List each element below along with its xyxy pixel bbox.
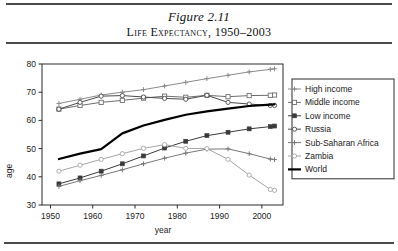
- chart-legend: High incomeMiddle incomeLow incomeRussia…: [288, 79, 394, 179]
- y-tick-label: 50: [27, 144, 37, 154]
- x-axis-title: year: [155, 225, 172, 235]
- y-tick-label: 70: [27, 87, 37, 97]
- x-tick-label: 1980: [168, 211, 187, 221]
- x-tick-label: 1960: [83, 211, 102, 221]
- legend-label: Russia: [305, 124, 331, 134]
- legend-label: High income: [305, 84, 353, 94]
- x-axis-ticks: 195019601970198019902000: [41, 205, 272, 221]
- x-tick-label: 1970: [126, 211, 145, 221]
- figure-header: Figure 2.11 Life Expectancy, 1950–2003: [0, 0, 398, 45]
- y-tick-label: 30: [27, 200, 37, 210]
- legend-label: Zambia: [305, 151, 334, 161]
- x-tick-label: 2000: [252, 211, 271, 221]
- life-expectancy-line-chart: 304050607080 195019601970198019902000 Hi…: [0, 48, 398, 238]
- legend-label: Middle income: [305, 97, 360, 107]
- plot-frame: [42, 64, 283, 205]
- header-rule-top: [6, 3, 392, 5]
- footer-rule: [4, 242, 394, 244]
- x-tick-label: 1950: [41, 211, 60, 221]
- y-axis-ticks: 304050607080: [27, 59, 42, 210]
- y-tick-label: 80: [27, 59, 37, 69]
- header-rule-bottom: [6, 42, 392, 44]
- legend-label: World: [305, 164, 327, 174]
- y-tick-label: 60: [27, 115, 37, 125]
- x-tick-label: 1990: [210, 211, 229, 221]
- legend-label: Low income: [305, 111, 351, 121]
- figure-number: Figure 2.11: [0, 9, 398, 25]
- figure-title: Life Expectancy, 1950–2003: [0, 25, 398, 40]
- y-tick-label: 40: [27, 172, 37, 182]
- legend-label: Sub-Saharan Africa: [305, 138, 379, 148]
- chart-container: 304050607080 195019601970198019902000 Hi…: [0, 48, 398, 238]
- y-axis-title: age: [4, 164, 14, 178]
